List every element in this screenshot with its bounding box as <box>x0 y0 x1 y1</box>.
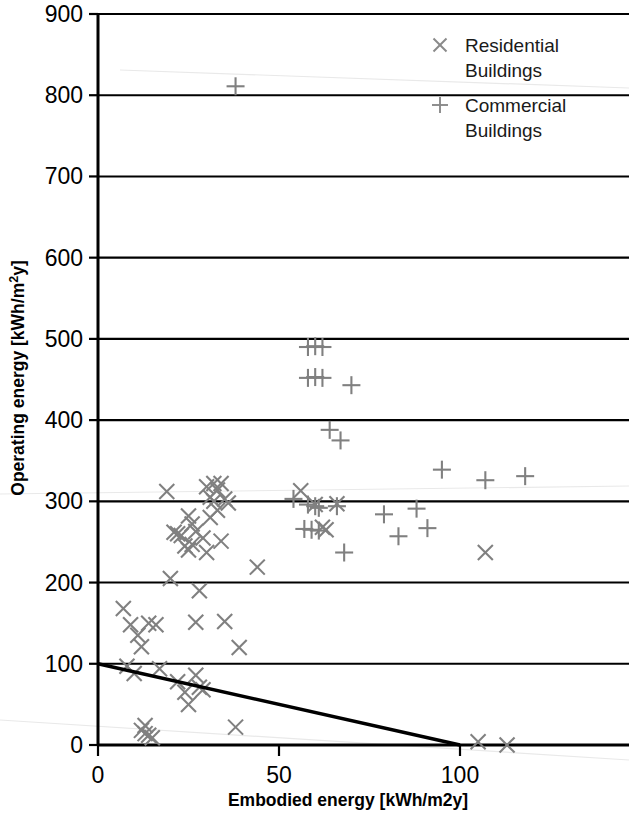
y-tick-label: 200 <box>45 570 83 596</box>
background-artifacts <box>0 70 629 760</box>
residential-data-point <box>188 615 203 630</box>
legend-item: CommercialBuildings <box>432 95 566 141</box>
legend-label-line2: Buildings <box>465 60 542 81</box>
y-tick-label: 500 <box>45 326 83 352</box>
y-axis-ticks: 0100200300400500600700800900 <box>45 1 98 758</box>
residential-data-point <box>214 534 229 549</box>
commercial-data-point <box>476 471 494 489</box>
residential-data-point <box>232 640 247 655</box>
y-tick-label: 700 <box>45 163 83 189</box>
commercial-data-point <box>332 431 350 449</box>
residential-data-point <box>250 560 265 575</box>
axis-lines <box>98 14 629 745</box>
chart-legend: ResidentialBuildingsCommercialBuildings <box>432 35 566 141</box>
commercial-data-point <box>342 376 360 394</box>
residential-data-point <box>177 685 192 700</box>
residential-data-point <box>134 639 149 654</box>
commercial-data-point <box>433 461 451 479</box>
y-tick-label: 100 <box>45 651 83 677</box>
residential-data-point <box>214 476 229 491</box>
x-tick-label: 50 <box>266 762 292 788</box>
commercial-data-point <box>335 544 353 562</box>
y-axis-title: Operating energy [kWh/m2y] <box>7 260 28 495</box>
legend-x-marker-icon <box>434 39 447 52</box>
residential-data-point <box>471 734 486 749</box>
legend-plus-marker-icon <box>432 97 448 113</box>
residential-data-point <box>188 668 203 683</box>
commercial-data-point <box>227 77 245 95</box>
y-tick-label: 400 <box>45 407 83 433</box>
residential-data-point <box>116 601 131 616</box>
legend-item: ResidentialBuildings <box>434 35 560 81</box>
y-tick-label: 600 <box>45 245 83 271</box>
residential-data-point <box>199 545 214 560</box>
y-tick-label: 0 <box>70 732 83 758</box>
commercial-data-point <box>516 467 534 485</box>
residential-data-point <box>221 495 236 510</box>
residential-data-point <box>181 697 196 712</box>
residential-data-point <box>123 617 138 632</box>
residential-data-point <box>228 720 243 735</box>
commercial-data-point <box>375 505 393 523</box>
y-tick-label: 300 <box>45 488 83 514</box>
y-tick-label: 900 <box>45 1 83 27</box>
x-tick-label: 0 <box>92 762 105 788</box>
x-axis-title: Embodied energy [kWh/m2y] <box>228 790 468 810</box>
legend-label-line1: Residential <box>465 35 559 56</box>
plot-area: 0100200300400500600700800900 050100 Resi… <box>0 0 631 816</box>
scatter-chart: 0100200300400500600700800900 050100 Resi… <box>0 0 631 816</box>
y-tick-label: 800 <box>45 82 83 108</box>
commercial-data-point <box>418 519 436 537</box>
gridlines <box>98 14 629 745</box>
residential-data-point <box>217 614 232 629</box>
x-axis-ticks: 050100 <box>92 745 480 788</box>
residential-data-point <box>192 583 207 598</box>
residential-data-point <box>478 545 493 560</box>
commercial-data-point <box>328 497 346 515</box>
legend-label-line2: Buildings <box>465 120 542 141</box>
residential-data-point <box>163 571 178 586</box>
legend-label-line1: Commercial <box>465 95 566 116</box>
commercial-data-point <box>389 527 407 545</box>
commercial-data-point <box>321 421 339 439</box>
x-tick-label: 100 <box>441 762 479 788</box>
